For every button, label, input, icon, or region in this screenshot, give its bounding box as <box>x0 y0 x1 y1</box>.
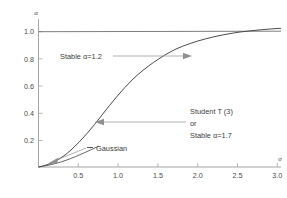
annotation-student-t-3-line1: Student T (3) <box>190 107 233 116</box>
annotation-stable-alpha-1-2-arrowhead <box>183 53 192 60</box>
x-axis-title: σ <box>278 155 282 163</box>
chart-svg: 1.0 0.8 0.6 0.4 0.2 0.5 1.0 1.5 2.0 2.5 … <box>0 0 287 198</box>
x-tick-label-3-0: 3.0 <box>272 171 282 180</box>
y-axis-title: α <box>34 9 38 17</box>
series-line-student-t-3 <box>39 28 282 167</box>
x-tick-label-2-5: 2.5 <box>233 171 243 180</box>
y-tick-label-0-2: 0.2 <box>24 136 34 145</box>
annotation-gaussian: Gaussian <box>48 144 127 165</box>
series-line-gaussian <box>39 146 100 167</box>
annotation-gaussian-label: Gaussian <box>96 144 127 153</box>
x-tick-label-1-0: 1.0 <box>113 171 123 180</box>
x-tick-label-0-5: 0.5 <box>73 171 83 180</box>
annotation-student-t-3-line2: or <box>190 119 197 128</box>
annotation-gaussian-arrowhead <box>48 158 59 164</box>
y-tick-label-1-0: 1.0 <box>24 27 34 36</box>
annotation-stable-alpha-1-2-label: Stable α=1.2 <box>60 52 102 61</box>
x-tick-label-1-5: 1.5 <box>153 171 163 180</box>
annotation-student-t-3-arrowhead <box>95 119 104 126</box>
y-tick-label-0-6: 0.6 <box>24 82 34 91</box>
annotation-stable-alpha-1-2: Stable α=1.2 <box>60 52 192 61</box>
y-axis-ticks <box>39 32 43 141</box>
annotation-student-t-3-line3: Stable α=1.7 <box>190 131 232 140</box>
annotation-student-t-3: Student T (3) or Stable α=1.7 <box>95 107 233 140</box>
x-axis-ticks <box>78 163 277 167</box>
y-tick-label-0-8: 0.8 <box>24 55 34 64</box>
chart-figure: 1.0 0.8 0.6 0.4 0.2 0.5 1.0 1.5 2.0 2.5 … <box>0 0 287 198</box>
x-tick-label-2-0: 2.0 <box>193 171 203 180</box>
y-tick-label-0-4: 0.4 <box>24 109 34 118</box>
